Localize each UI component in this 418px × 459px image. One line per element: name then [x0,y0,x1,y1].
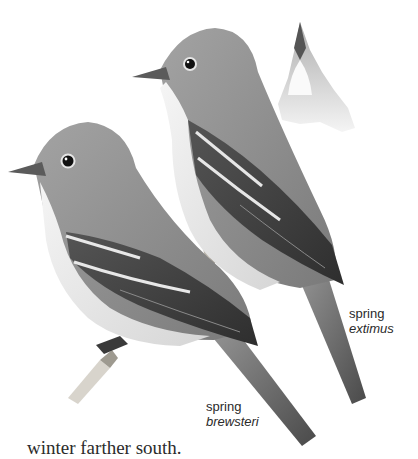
label-extimus-season: spring [349,306,394,321]
bill-detail-figure [278,22,355,132]
label-brewsteri: spring brewsteri [206,399,259,429]
body-text: winter farther south. [27,437,182,459]
bird-illustration-plate [0,0,418,459]
label-brewsteri-season: spring [206,399,259,414]
label-extimus-subspecies: extimus [349,321,394,336]
label-brewsteri-subspecies: brewsteri [206,414,259,429]
label-extimus: spring extimus [349,306,394,336]
